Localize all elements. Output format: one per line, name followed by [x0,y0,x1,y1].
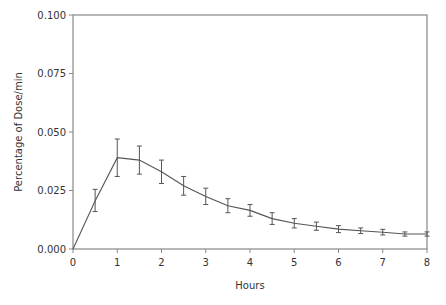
y-tick-label: 0.075 [37,68,66,79]
x-tick-label: 8 [424,257,430,268]
x-tick-label: 1 [114,257,120,268]
x-tick-label: 5 [291,257,297,268]
error-bar [181,176,186,195]
y-tick-label: 0.050 [37,127,66,138]
y-tick-label: 0.025 [37,185,66,196]
x-axis: 012345678 [70,249,430,268]
x-tick-label: 3 [203,257,209,268]
x-axis-title: Hours [235,280,264,291]
error-bar [93,189,98,211]
chart: 0.0000.0250.0500.0750.100 012345678 Hour… [0,0,446,305]
data-line [73,158,427,249]
x-tick-label: 0 [70,257,76,268]
y-tick-label: 0.000 [37,244,66,255]
y-tick-label: 0.100 [37,10,66,21]
y-axis: 0.0000.0250.0500.0750.100 [37,10,73,255]
x-tick-label: 2 [158,257,164,268]
x-tick-label: 4 [247,257,253,268]
x-tick-label: 7 [380,257,386,268]
y-axis-title: Percentage of Dose/min [13,72,24,192]
data-series [73,139,430,249]
error-bar [203,188,208,204]
x-tick-label: 6 [335,257,341,268]
error-bar [159,160,164,183]
